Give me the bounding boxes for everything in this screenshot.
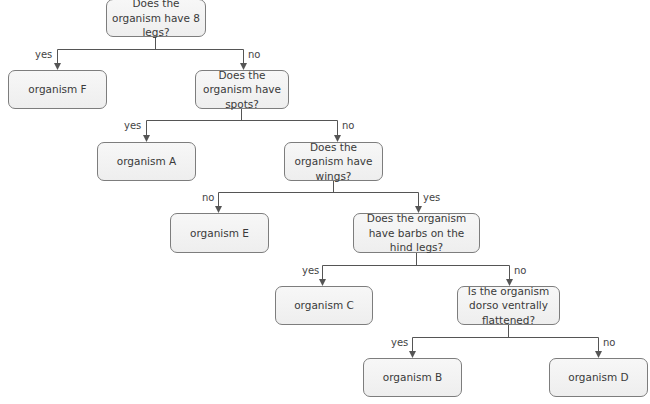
edge-label-no: no	[514, 265, 526, 276]
edge-label-no: no	[342, 120, 354, 131]
result-text: organism A	[117, 154, 176, 169]
result-text: organism E	[190, 226, 249, 241]
edge-label-no: no	[603, 337, 615, 348]
question-8-legs: Does the organism have 8 legs?	[106, 0, 206, 37]
result-organism-e: organism E	[170, 213, 269, 253]
question-text: Does the organism have barbs on the hind…	[358, 211, 475, 255]
edge-label-yes: yes	[423, 192, 440, 203]
result-organism-d: organism D	[549, 358, 648, 397]
connector-lines	[0, 0, 650, 404]
question-text: Does the organism have wings?	[289, 140, 378, 184]
question-text: Does the organism have spots?	[200, 68, 284, 112]
question-wings: Does the organism have wings?	[284, 142, 383, 181]
result-organism-f: organism F	[8, 70, 107, 109]
question-dorso-ventrally-flattened: Is the organism dorso ventrally flattene…	[457, 286, 560, 325]
result-text: organism B	[383, 370, 442, 385]
result-text: organism F	[28, 82, 86, 97]
result-text: organism D	[568, 370, 628, 385]
edge-label-no: no	[202, 192, 214, 203]
question-barbs-hind-legs: Does the organism have barbs on the hind…	[353, 213, 480, 253]
result-text: organism C	[294, 298, 354, 313]
edge-label-yes: yes	[302, 265, 319, 276]
question-spots: Does the organism have spots?	[195, 70, 289, 109]
question-text: Is the organism dorso ventrally flattene…	[462, 284, 555, 328]
edge-label-yes: yes	[124, 120, 141, 131]
result-organism-c: organism C	[275, 286, 373, 325]
edge-label-no: no	[248, 49, 260, 60]
edge-label-yes: yes	[391, 337, 408, 348]
result-organism-a: organism A	[97, 142, 196, 181]
result-organism-b: organism B	[363, 358, 462, 397]
question-text: Does the organism have 8 legs?	[111, 0, 201, 40]
edge-label-yes: yes	[35, 49, 52, 60]
